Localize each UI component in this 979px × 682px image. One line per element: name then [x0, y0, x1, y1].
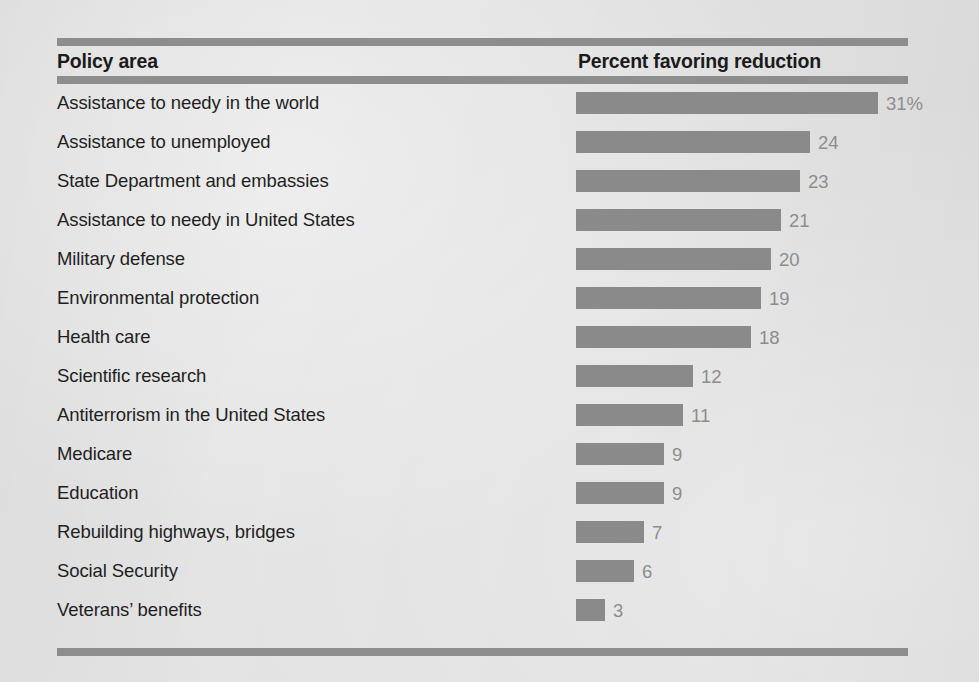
chart-row: Scientific research12	[0, 365, 979, 404]
bar-value-label: 3	[613, 599, 623, 621]
bar-track: 6	[576, 560, 878, 582]
row-category-label: Health care	[57, 326, 151, 348]
row-category-label: Scientific research	[57, 365, 206, 387]
bar-track: 9	[576, 443, 878, 465]
row-category-label: Medicare	[57, 443, 132, 465]
bar-value-label: 31%	[886, 92, 923, 114]
chart-row: Assistance to needy in the world31%	[0, 92, 979, 131]
chart-row: Veterans’ benefits3	[0, 599, 979, 638]
bar	[576, 365, 693, 387]
bar	[576, 209, 781, 231]
chart-row: Health care18	[0, 326, 979, 365]
bar	[576, 248, 771, 270]
chart-row: Military defense20	[0, 248, 979, 287]
bar-value-label: 12	[701, 365, 722, 387]
row-category-label: Veterans’ benefits	[57, 599, 202, 621]
bar	[576, 521, 644, 543]
bar	[576, 92, 878, 114]
bar-track: 23	[576, 170, 878, 192]
chart-row: Assistance to needy in United States21	[0, 209, 979, 248]
bar	[576, 560, 634, 582]
bar-value-label: 9	[672, 443, 682, 465]
column-header-percent-favoring-reduction: Percent favoring reduction	[578, 50, 821, 73]
bar	[576, 404, 683, 426]
chart-row: Social Security6	[0, 560, 979, 599]
row-category-label: Assistance to unemployed	[57, 131, 271, 153]
chart-row: State Department and embassies23	[0, 170, 979, 209]
bar-value-label: 9	[672, 482, 682, 504]
row-category-label: Education	[57, 482, 138, 504]
bar-value-label: 23	[808, 170, 829, 192]
bar-value-label: 7	[652, 521, 662, 543]
row-category-label: Antiterrorism in the United States	[57, 404, 325, 426]
bar-track: 31%	[576, 92, 878, 114]
chart-rows: Assistance to needy in the world31%Assis…	[0, 92, 979, 638]
bar-track: 24	[576, 131, 878, 153]
bar-track: 3	[576, 599, 878, 621]
footer-rule	[57, 648, 908, 656]
bar	[576, 443, 664, 465]
bar-value-label: 21	[789, 209, 810, 231]
row-category-label: Rebuilding highways, bridges	[57, 521, 295, 543]
bar-value-label: 20	[779, 248, 800, 270]
chart-row: Antiterrorism in the United States11	[0, 404, 979, 443]
bar-value-label: 24	[818, 131, 839, 153]
bar-value-label: 11	[691, 404, 710, 426]
chart-row: Assistance to unemployed24	[0, 131, 979, 170]
bar-track: 12	[576, 365, 878, 387]
chart-row: Environmental protection19	[0, 287, 979, 326]
bar	[576, 599, 605, 621]
bar-chart-figure: Policy area Percent favoring reduction A…	[0, 0, 979, 682]
bar-track: 11	[576, 404, 878, 426]
bar-track: 21	[576, 209, 878, 231]
bar	[576, 131, 810, 153]
bar-track: 7	[576, 521, 878, 543]
bar	[576, 326, 751, 348]
column-header-policy-area: Policy area	[57, 50, 158, 73]
bar-value-label: 18	[759, 326, 780, 348]
row-category-label: Social Security	[57, 560, 178, 582]
row-category-label: Environmental protection	[57, 287, 259, 309]
bar-value-label: 19	[769, 287, 790, 309]
bar-track: 19	[576, 287, 878, 309]
header-rule-top	[57, 38, 908, 46]
chart-row: Medicare9	[0, 443, 979, 482]
row-category-label: Assistance to needy in the world	[57, 92, 319, 114]
row-category-label: Military defense	[57, 248, 185, 270]
row-category-label: Assistance to needy in United States	[57, 209, 355, 231]
row-category-label: State Department and embassies	[57, 170, 329, 192]
bar	[576, 482, 664, 504]
bar-track: 20	[576, 248, 878, 270]
header-rule-bottom	[57, 76, 908, 84]
bar	[576, 287, 761, 309]
bar	[576, 170, 800, 192]
bar-value-label: 6	[642, 560, 652, 582]
bar-track: 18	[576, 326, 878, 348]
chart-row: Education9	[0, 482, 979, 521]
chart-row: Rebuilding highways, bridges7	[0, 521, 979, 560]
bar-track: 9	[576, 482, 878, 504]
